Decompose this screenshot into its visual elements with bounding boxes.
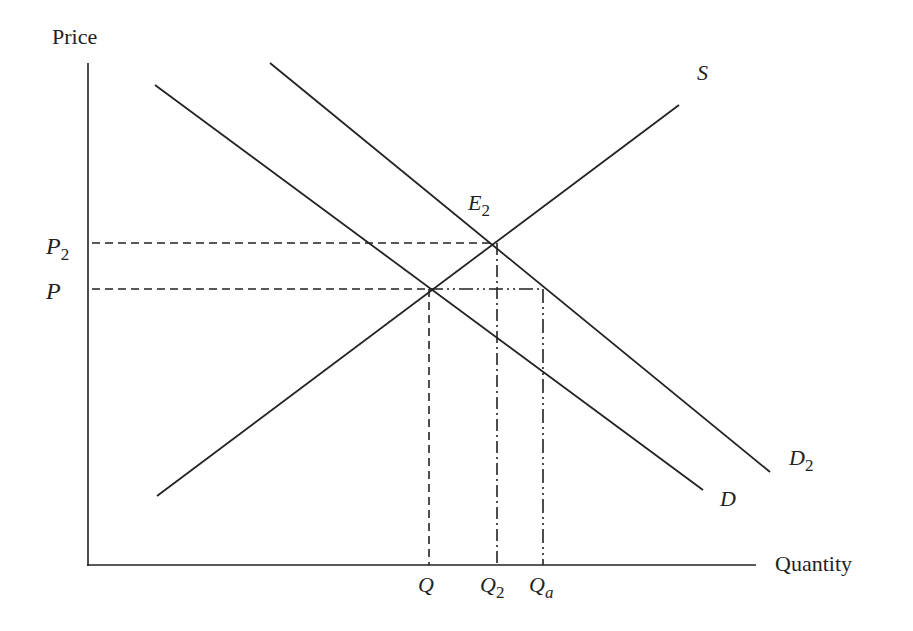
p2-sub: 2 (61, 245, 70, 264)
demand-curve-d2 (270, 63, 770, 472)
y-tick-p2: P2 (46, 234, 69, 258)
demand-curve-d (155, 85, 703, 490)
q2-main: Q (480, 572, 496, 597)
x-tick-q: Q (418, 574, 434, 596)
x-tick-qa: Qa (529, 574, 553, 596)
qa-main: Q (529, 572, 545, 597)
d2-main: D (789, 445, 805, 470)
y-axis-title: Price (52, 26, 97, 48)
equilibrium-e2-label: E2 (468, 192, 490, 214)
p2-main: P (46, 233, 61, 259)
e2-sub: 2 (481, 201, 490, 220)
q2-sub: 2 (496, 583, 505, 602)
e2-main: E (468, 190, 481, 215)
demand-curve-d2-label: D2 (789, 447, 813, 469)
supply-curve-label: S (697, 62, 708, 84)
y-tick-p: P (46, 279, 61, 303)
x-tick-q2: Q2 (480, 574, 504, 596)
supply-demand-diagram (0, 0, 913, 631)
demand-curve-label: D (720, 488, 736, 510)
x-axis-title: Quantity (775, 553, 852, 575)
d2-sub: 2 (805, 456, 814, 475)
qa-sub: a (545, 583, 554, 602)
supply-curve-s (157, 105, 679, 496)
